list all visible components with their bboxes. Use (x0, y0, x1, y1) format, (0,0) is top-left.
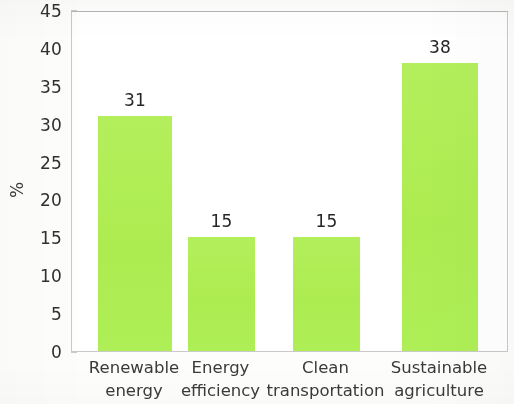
y-axis-tick-label: 30 (40, 115, 62, 135)
bar-value-label: 15 (315, 211, 337, 231)
y-axis-tick-label: 5 (51, 304, 62, 324)
y-axis-tick-label: 40 (40, 39, 62, 59)
category-label-line: Energy (192, 358, 250, 377)
category-label-line: transportation (267, 379, 385, 402)
y-axis-tick-label: 15 (40, 228, 62, 248)
plot-area: 31151538 (72, 12, 507, 351)
bar[interactable] (188, 237, 255, 351)
plot-frame: 31151538 (71, 11, 508, 352)
x-axis-category-label: Renewableenergy (89, 356, 179, 402)
x-axis-category-label: Sustainableagriculture (391, 356, 487, 402)
x-axis-category-label: Energyefficiency (181, 356, 260, 402)
category-label-line: Renewable (89, 358, 179, 377)
y-axis-tick-label: 10 (40, 266, 62, 286)
y-axis-tick-label: 25 (40, 153, 62, 173)
category-label-line: energy (89, 379, 179, 402)
x-axis-category-labels: RenewableenergyEnergyefficiencyCleantran… (71, 356, 508, 404)
bar[interactable] (98, 116, 172, 351)
y-axis-tick-label: 35 (40, 77, 62, 97)
y-axis-tick-label: 45 (40, 1, 62, 21)
category-label-line: Clean (302, 358, 349, 377)
y-axis-tick-label: 20 (40, 190, 62, 210)
category-label-line: agriculture (391, 379, 487, 402)
category-label-line: efficiency (181, 379, 260, 402)
y-axis-tick-labels: 051015202530354045 (30, 11, 65, 352)
bar-value-label: 15 (210, 211, 232, 231)
bar-value-label: 38 (429, 37, 451, 57)
bar[interactable] (293, 237, 360, 351)
bar[interactable] (402, 63, 478, 351)
bar-chart-figure: % 051015202530354045 31151538 Renewablee… (0, 0, 514, 404)
x-axis-category-label: Cleantransportation (267, 356, 385, 402)
y-axis-tick-label: 0 (51, 342, 62, 362)
bar-value-label: 31 (124, 90, 146, 110)
category-label-line: Sustainable (391, 358, 487, 377)
